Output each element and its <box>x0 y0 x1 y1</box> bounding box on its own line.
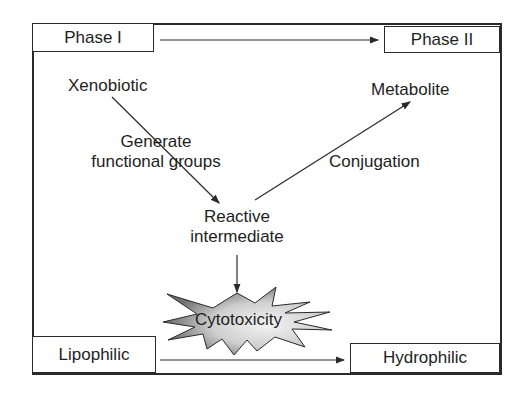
cytotoxicity-label: Cytotoxicity <box>195 310 282 330</box>
reactive-line1: Reactive <box>177 207 297 227</box>
reactive-line2: intermediate <box>177 227 297 247</box>
lipophilic-label: Lipophilic <box>59 345 130 365</box>
xenobiotic-label: Xenobiotic <box>68 76 147 96</box>
conjugation-label: Conjugation <box>329 152 420 172</box>
hydrophilic-label: Hydrophilic <box>383 348 467 368</box>
generate-label: Generate functional groups <box>86 132 226 172</box>
generate-label-line1: Generate <box>86 132 226 152</box>
phase-1-label: Phase I <box>64 28 122 48</box>
conjugation-arrow <box>255 102 410 200</box>
generate-label-line2: functional groups <box>86 152 226 172</box>
reactive-intermediate-label: Reactive intermediate <box>177 207 297 247</box>
metabolite-label: Metabolite <box>371 80 449 100</box>
phase-2-box: Phase II <box>384 26 500 53</box>
lipophilic-box: Lipophilic <box>32 336 156 373</box>
phase-1-box: Phase I <box>32 23 154 52</box>
hydrophilic-box: Hydrophilic <box>350 343 500 373</box>
phase-2-label: Phase II <box>411 30 473 50</box>
